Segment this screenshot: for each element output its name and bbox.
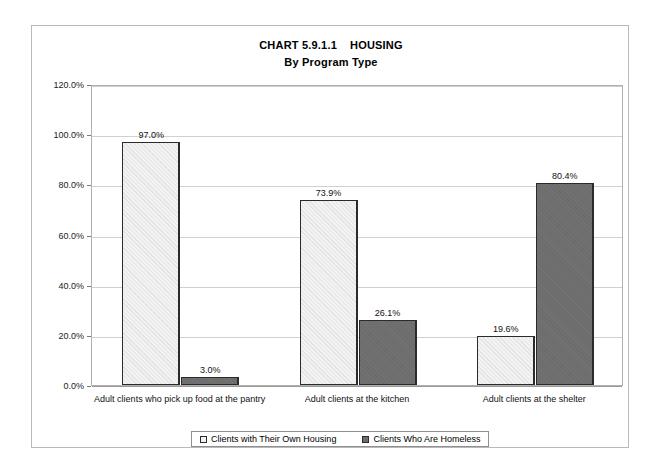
y-axis-tick-label: 100.0%	[32, 130, 84, 140]
y-axis-tick-label: 20.0%	[32, 331, 84, 341]
bar	[536, 183, 594, 385]
bar-value-label: 97.0%	[138, 130, 164, 140]
y-axis-tick-label: 120.0%	[32, 80, 84, 90]
y-axis-tick-label: 80.0%	[32, 180, 84, 190]
bar	[359, 320, 417, 385]
plot-area: 97.0%3.0%73.9%26.1%19.6%80.4%	[91, 85, 623, 386]
x-axis-tick-label: Adult clients who pick up food at the pa…	[94, 394, 265, 404]
bars-layer: 97.0%3.0%73.9%26.1%19.6%80.4%	[92, 86, 622, 385]
legend-item-label: Clients with Their Own Housing	[211, 434, 336, 444]
y-axis-tick-label: 60.0%	[32, 231, 84, 241]
y-axis-tick-label: 0.0%	[32, 381, 84, 391]
chart-subtitle: By Program Type	[32, 56, 630, 68]
x-axis-tick-label: Adult clients at the kitchen	[305, 394, 410, 404]
x-axis-tick-label: Adult clients at the shelter	[483, 394, 586, 404]
bar	[477, 336, 535, 385]
bar	[122, 142, 180, 385]
legend-swatch-icon	[200, 436, 207, 443]
chart-legend: Clients with Their Own HousingClients Wh…	[191, 431, 489, 447]
y-axis-tick-mark	[87, 386, 91, 387]
y-axis-tick-label: 40.0%	[32, 281, 84, 291]
bar-value-label: 3.0%	[200, 365, 221, 375]
bar	[181, 377, 239, 385]
legend-swatch-icon	[362, 436, 369, 443]
bar-value-label: 73.9%	[316, 188, 342, 198]
bar-value-label: 80.4%	[552, 171, 578, 181]
bar-value-label: 19.6%	[493, 324, 519, 334]
bar	[300, 200, 358, 385]
chart-title: CHART 5.9.1.1 HOUSING	[32, 39, 630, 51]
bar-value-label: 26.1%	[375, 308, 401, 318]
chart-frame: CHART 5.9.1.1 HOUSING By Program Type Pe…	[31, 25, 629, 448]
legend-item-label: Clients Who Are Homeless	[373, 434, 480, 444]
legend-item: Clients Who Are Homeless	[362, 434, 480, 444]
legend-item: Clients with Their Own Housing	[200, 434, 336, 444]
gridline	[92, 386, 622, 387]
chart-container: CHART 5.9.1.1 HOUSING By Program Type Pe…	[0, 0, 660, 470]
